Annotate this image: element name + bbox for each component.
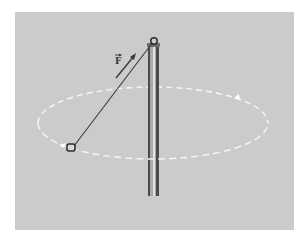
ball (67, 144, 75, 151)
circular-motion-diagram (0, 0, 306, 240)
string (74, 42, 153, 146)
vertical-pole (147, 43, 160, 196)
force-label: F (115, 56, 121, 66)
pivot-ring (151, 38, 157, 44)
